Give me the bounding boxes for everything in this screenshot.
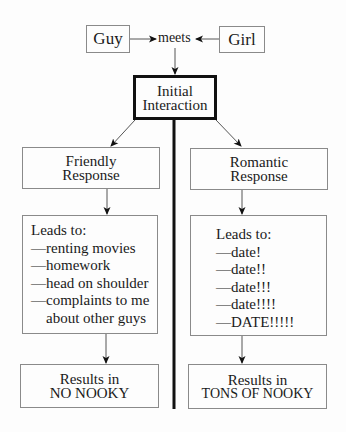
- romantic-leads-item: —date!!!: [216, 279, 271, 297]
- friendly-result-line2: NO NOOKY: [50, 386, 130, 400]
- romantic-leads-item: —DATE!!!!!: [216, 314, 294, 332]
- meets-label: meets: [158, 30, 191, 46]
- friendly-result-box: Results in NO NOOKY: [20, 364, 159, 408]
- girl-label: Girl: [228, 33, 255, 47]
- romantic-result-box: Results in TONS OF NOOKY: [188, 364, 327, 409]
- friendly-leads-box: Leads to: —renting movies —homework —hea…: [22, 215, 158, 334]
- friendly-line2: Response: [62, 168, 120, 182]
- romantic-leads-item: —date!!!!: [216, 296, 276, 314]
- friendly-leads-item: —complaints to me: [31, 292, 149, 310]
- arrow-initial-romantic: [216, 120, 241, 146]
- romantic-leads-item: —date!: [216, 244, 261, 262]
- romantic-line1: Romantic: [230, 155, 288, 169]
- arrow-initial-friendly: [111, 120, 135, 146]
- friendly-leads-item: —renting movies: [31, 240, 136, 258]
- guy-label: Guy: [93, 32, 122, 46]
- initial-line1: Initial: [157, 84, 193, 98]
- friendly-leads-item: —head on shoulder: [31, 275, 148, 293]
- friendly-leads-heading: Leads to:: [31, 222, 86, 240]
- guy-box: Guy: [86, 25, 130, 53]
- romantic-leads-item: —date!!: [216, 261, 266, 279]
- romantic-leads-box: Leads to: —date! —date!! —date!!! —date!…: [190, 215, 327, 336]
- friendly-result-line1: Results in: [60, 372, 120, 386]
- romantic-result-line1: Results in: [228, 373, 288, 387]
- friendly-leads-item: —homework: [31, 257, 110, 275]
- friendly-leads-item: about other guys: [31, 310, 146, 328]
- romantic-response-box: Romantic Response: [190, 148, 328, 190]
- initial-line2: Interaction: [143, 98, 208, 112]
- romantic-line2: Response: [230, 169, 288, 183]
- friendly-line1: Friendly: [66, 154, 117, 168]
- friendly-response-box: Friendly Response: [22, 147, 160, 189]
- romantic-leads-heading: Leads to:: [216, 226, 271, 244]
- romantic-result-line2: TONS OF NOOKY: [202, 387, 314, 401]
- initial-interaction-box: Initial Interaction: [133, 75, 217, 120]
- girl-box: Girl: [219, 26, 265, 53]
